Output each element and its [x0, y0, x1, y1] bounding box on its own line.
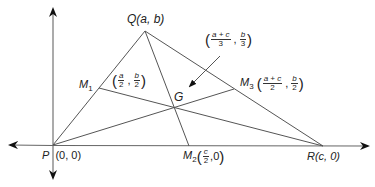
midpoint-M2-label: M2(c2,0) — [183, 148, 224, 165]
close-paren: ) — [219, 148, 224, 165]
M2-name: M — [183, 149, 192, 161]
median-P-M3 — [53, 89, 234, 145]
M3-name: M — [240, 76, 249, 88]
M3-y-frac: b2 — [291, 75, 297, 92]
M1-name: M — [79, 78, 88, 90]
frac-den: 2 — [134, 81, 140, 89]
M1-x-frac: a2 — [118, 72, 124, 89]
open-paren: ( — [257, 75, 262, 92]
midpoint-M3-label: M3 (a + c2,b2) — [240, 75, 304, 92]
open-paren: ( — [197, 148, 202, 165]
midpoint-M1-coords: (a2,b2) — [112, 72, 146, 89]
centroid-G-label: G — [174, 91, 183, 103]
vertex-R-label: R(c, 0) — [307, 151, 340, 162]
frac-den: 3 — [218, 40, 224, 48]
comma: , — [234, 33, 237, 45]
vertex-P-label: P (0, 0) — [42, 150, 81, 161]
median-R-M1 — [99, 88, 323, 146]
M3-x-frac: a + c2 — [263, 75, 283, 92]
frac-den: 2 — [203, 157, 209, 165]
frac-den: 2 — [291, 84, 297, 92]
M1-sub: 1 — [88, 84, 92, 93]
M2-x-frac: c2 — [203, 148, 209, 165]
centroid-pointer-arrow — [190, 56, 220, 86]
comma: , — [285, 77, 288, 89]
comma: , — [127, 74, 130, 86]
G-y-frac: b3 — [240, 31, 246, 48]
frac-den: 2 — [118, 81, 124, 89]
M2-y-value: ,0 — [210, 150, 219, 162]
frac-den: 3 — [240, 40, 246, 48]
centroid-coords: (a + c3,b3) — [205, 31, 252, 48]
M1-y-frac: b2 — [134, 72, 140, 89]
median-Q-M2 — [145, 31, 189, 146]
close-paren: ) — [299, 75, 304, 92]
x-axis-left — [10, 145, 53, 146]
open-paren: ( — [112, 72, 117, 89]
close-paren: ) — [141, 72, 146, 89]
close-paren: ) — [247, 31, 252, 48]
vertex-Q-label: Q(a, b) — [127, 13, 164, 25]
midpoint-M1-label: M1 — [79, 79, 93, 93]
G-x-frac: a + c3 — [211, 31, 231, 48]
frac-den: 2 — [269, 84, 275, 92]
M3-sub: 3 — [249, 82, 253, 91]
open-paren: ( — [205, 31, 210, 48]
vertex-P-coords: (0, 0) — [55, 149, 81, 161]
vertex-P-name: P — [42, 149, 49, 161]
